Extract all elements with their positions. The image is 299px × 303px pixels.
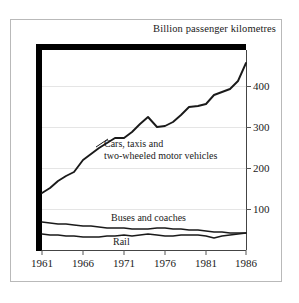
axis-top-bar xyxy=(36,44,246,50)
series-annotation-cars: Cars, taxis and two-wheeled motor vehicl… xyxy=(104,138,217,161)
chart-figure: Billion passenger kilometres xyxy=(0,0,299,303)
axis-left-bar xyxy=(36,44,42,251)
y-axis-label-300: 300 xyxy=(253,121,287,133)
x-axis-label-1981: 1981 xyxy=(186,257,226,269)
y-axis-label-100: 100 xyxy=(253,203,287,215)
x-axis-label-1971: 1971 xyxy=(104,257,144,269)
series-line-buses xyxy=(42,222,246,233)
x-axis-label-1966: 1966 xyxy=(63,257,103,269)
series-annotation-cars-line1: Cars, taxis and xyxy=(104,138,217,150)
y-axis-label-200: 200 xyxy=(253,162,287,174)
x-axis-label-1986: 1986 xyxy=(226,257,266,269)
y-axis-label-400: 400 xyxy=(253,80,287,92)
series-annotation-buses: Buses and coaches xyxy=(111,212,186,224)
series-annotation-cars-line2: two-wheeled motor vehicles xyxy=(104,150,217,162)
series-annotation-rail: Rail xyxy=(113,236,130,248)
x-axis-label-1976: 1976 xyxy=(145,257,185,269)
x-axis-label-1961: 1961 xyxy=(22,257,62,269)
series-line-rail xyxy=(42,233,246,238)
